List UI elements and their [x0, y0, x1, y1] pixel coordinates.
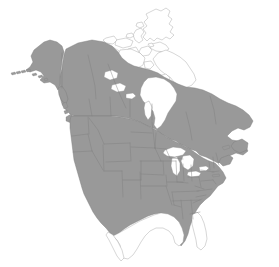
- north-america-map: [0, 0, 279, 267]
- map-container: North America United States and southern…: [0, 0, 279, 267]
